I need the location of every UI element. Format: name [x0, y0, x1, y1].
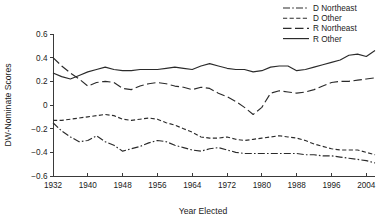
x-tick-label: 1988 — [288, 181, 307, 190]
x-tick-label: 1956 — [148, 181, 167, 190]
y-tick-label: −0.2 — [31, 125, 48, 134]
y-tick-label: −0.6 — [31, 172, 48, 181]
legend-label-d-other: D Other — [313, 14, 342, 23]
y-tick-label: −0.4 — [31, 148, 48, 157]
x-tick-label: 1964 — [183, 181, 202, 190]
x-tick-label: 1932 — [44, 181, 63, 190]
y-tick-label: 0 — [43, 101, 48, 110]
chart-legend: D NortheastD OtherR NortheastR Other — [283, 4, 357, 44]
x-tick-label: 1940 — [79, 181, 98, 190]
x-tick-label: 2004 — [357, 181, 376, 190]
chart-svg: D NortheastD OtherR NortheastR Other 0.6… — [0, 0, 382, 219]
series-line-d-northeast — [53, 123, 375, 163]
x-tick-label: 1948 — [114, 181, 133, 190]
y-tick-label: 0.2 — [36, 77, 48, 86]
series-line-r-northeast — [53, 58, 375, 115]
y-axis-title: DW-Nominate Scores — [3, 64, 13, 147]
legend-label-r-other: R Other — [313, 35, 342, 44]
y-tick-label: 0.4 — [36, 54, 48, 63]
legend-label-d-northeast: D Northeast — [313, 4, 357, 13]
legend-label-r-northeast: R Northeast — [313, 24, 357, 33]
x-tick-label: 1980 — [253, 181, 272, 190]
x-axis-title: Year Elected — [179, 206, 228, 216]
x-tick-label: 1972 — [218, 181, 237, 190]
dw-nominate-chart-figure: D NortheastD OtherR NortheastR Other 0.6… — [0, 0, 382, 219]
chart-series-group — [53, 51, 375, 163]
x-tick-label: 1996 — [322, 181, 341, 190]
chart-axes: 0.60.40.20−0.2−0.4−0.6193219401948195619… — [31, 30, 376, 190]
series-line-d-other — [53, 114, 375, 154]
series-line-r-other — [53, 51, 375, 79]
y-tick-label: 0.6 — [36, 30, 48, 39]
